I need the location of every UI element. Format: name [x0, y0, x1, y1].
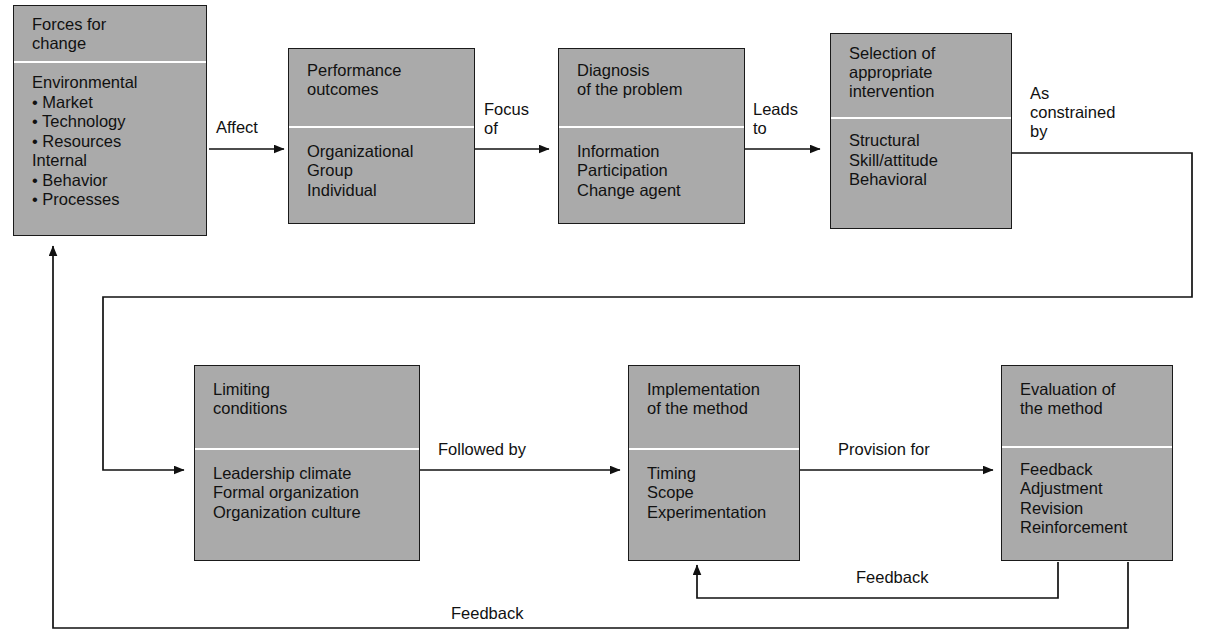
- node-body: Information Participation Change agent: [559, 128, 744, 207]
- node-body-line: Change agent: [577, 181, 744, 200]
- edge-label-provision-for: Provision for: [838, 440, 930, 459]
- diagram-canvas: Forces for change Environmental • Market…: [0, 0, 1206, 642]
- node-body-line: Leadership climate: [213, 464, 419, 483]
- edge-label-followed-by: Followed by: [438, 440, 526, 459]
- node-performance-outcomes[interactable]: Performance outcomes Organizational Grou…: [288, 48, 475, 224]
- node-header-line: of the method: [647, 399, 799, 418]
- node-body-line: Individual: [307, 181, 474, 200]
- node-body-line: Skill/attitude: [849, 151, 1011, 170]
- node-header: Forces for change: [14, 6, 206, 61]
- node-body-line: Environmental: [32, 73, 206, 92]
- node-body: Structural Skill/attitude Behavioral: [831, 119, 1011, 196]
- node-header-line: conditions: [213, 399, 419, 418]
- node-evaluation-of-the-method[interactable]: Evaluation of the method Feedback Adjust…: [1001, 365, 1173, 561]
- node-implementation-of-the-method[interactable]: Implementation of the method Timing Scop…: [628, 365, 800, 561]
- node-body-line: Scope: [647, 483, 799, 502]
- node-body-line: Group: [307, 161, 474, 180]
- node-header: Performance outcomes: [289, 49, 474, 107]
- node-body-line: Structural: [849, 131, 1011, 150]
- node-header-line: Forces for: [32, 15, 206, 34]
- node-diagnosis-of-the-problem[interactable]: Diagnosis of the problem Information Par…: [558, 48, 745, 224]
- node-body-line: Adjustment: [1020, 479, 1172, 498]
- edge-label-feedback-lower: Feedback: [451, 604, 523, 623]
- node-limiting-conditions[interactable]: Limiting conditions Leadership climate F…: [194, 365, 420, 561]
- node-body-line: Organizational: [307, 142, 474, 161]
- node-header: Diagnosis of the problem: [559, 49, 744, 107]
- node-header-line: the method: [1020, 399, 1172, 418]
- node-body-line: Formal organization: [213, 483, 419, 502]
- node-body-line: Behavioral: [849, 170, 1011, 189]
- node-header-line: Selection of: [849, 44, 1011, 63]
- node-header-line: intervention: [849, 82, 1011, 101]
- node-body: Timing Scope Experimentation: [629, 450, 799, 529]
- node-body-line: Information: [577, 142, 744, 161]
- node-body-line: • Market: [32, 93, 206, 112]
- node-body: Feedback Adjustment Revision Reinforceme…: [1002, 448, 1172, 545]
- node-header: Implementation of the method: [629, 366, 799, 426]
- node-body-line: Participation: [577, 161, 744, 180]
- node-body-line: Experimentation: [647, 503, 799, 522]
- node-body: Environmental • Market • Technology • Re…: [14, 63, 206, 217]
- node-header-line: Diagnosis: [577, 61, 744, 80]
- node-header-line: Implementation: [647, 380, 799, 399]
- node-body-line: Feedback: [1020, 460, 1172, 479]
- node-body-line: • Resources: [32, 132, 206, 151]
- node-forces-for-change[interactable]: Forces for change Environmental • Market…: [13, 5, 207, 236]
- node-header-line: change: [32, 34, 206, 53]
- node-header: Selection of appropriate intervention: [831, 34, 1011, 109]
- edge-label-feedback-upper: Feedback: [856, 568, 928, 587]
- node-body-line: Timing: [647, 464, 799, 483]
- node-header-line: Performance: [307, 61, 474, 80]
- edge-label-leads-to: Leads to: [753, 100, 798, 138]
- node-header: Evaluation of the method: [1002, 366, 1172, 426]
- edge-label-focus-of: Focus of: [484, 100, 529, 138]
- node-body-line: Revision: [1020, 499, 1172, 518]
- node-body-line: • Technology: [32, 112, 206, 131]
- node-header-line: Evaluation of: [1020, 380, 1172, 399]
- node-header-line: outcomes: [307, 80, 474, 99]
- node-body-line: Internal: [32, 151, 206, 170]
- node-selection-of-appropriate-intervention[interactable]: Selection of appropriate intervention St…: [830, 33, 1012, 229]
- node-body-line: • Behavior: [32, 171, 206, 190]
- node-body-line: Reinforcement: [1020, 518, 1172, 537]
- node-body: Organizational Group Individual: [289, 128, 474, 207]
- edge-label-as-constrained-by: As constrained by: [1030, 84, 1115, 141]
- node-header-line: appropriate: [849, 63, 1011, 82]
- node-body-line: • Processes: [32, 190, 206, 209]
- node-header-line: Limiting: [213, 380, 419, 399]
- node-header-line: of the problem: [577, 80, 744, 99]
- node-body-line: Organization culture: [213, 503, 419, 522]
- node-body: Leadership climate Formal organization O…: [195, 450, 419, 529]
- edge-label-affect: Affect: [216, 118, 258, 137]
- node-header: Limiting conditions: [195, 366, 419, 426]
